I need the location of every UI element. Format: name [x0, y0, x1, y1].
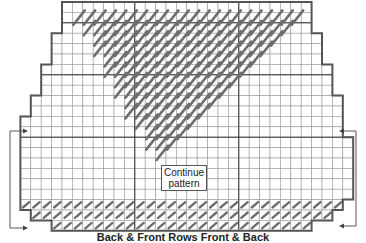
grid-cell: [208, 116, 218, 126]
grid-cell: [62, 137, 72, 147]
grid-cell: [280, 75, 290, 85]
grid-cell: [322, 148, 332, 158]
grid-cell: [312, 64, 322, 74]
continue-pattern-label: Continue pattern: [161, 165, 207, 191]
grid-cell: [270, 64, 280, 74]
grid-cell: [62, 44, 72, 54]
grid-cell: [322, 168, 332, 178]
grid-cell: [312, 75, 322, 85]
grid-cell: [104, 96, 114, 106]
grid-cell: [239, 168, 249, 178]
grid-cell: [176, 148, 186, 158]
grid-cell: [291, 137, 301, 147]
grid-cell: [270, 127, 280, 137]
grid-cell: [270, 75, 280, 85]
grid-cell: [93, 75, 103, 85]
grid-cell: [332, 189, 342, 199]
grid-cell: [343, 148, 353, 158]
grid-cell: [104, 116, 114, 126]
grid-cell: [280, 54, 290, 64]
grid-cell: [301, 33, 311, 43]
grid-cell: [260, 75, 270, 85]
grid-cell: [72, 189, 82, 199]
grid-cell: [41, 96, 51, 106]
grid-cell: [62, 148, 72, 158]
grid-cell: [218, 106, 228, 116]
grid-cell: [270, 85, 280, 95]
grid-cell: [83, 64, 93, 74]
grid-cell: [280, 64, 290, 74]
grid-cell: [249, 148, 259, 158]
grid-cell: [280, 85, 290, 95]
grid-cell: [124, 158, 134, 168]
grid-cell: [52, 54, 62, 64]
grid-cell: [280, 106, 290, 116]
grid-cell: [208, 158, 218, 168]
grid-cell: [218, 158, 228, 168]
grid-cell: [332, 168, 342, 178]
grid-cell: [322, 85, 332, 95]
grid-cell: [62, 2, 72, 12]
grid-cell: [208, 148, 218, 158]
grid-cell: [62, 96, 72, 106]
grid-cell: [301, 106, 311, 116]
grid-cell: [145, 189, 155, 199]
grid-cell: [312, 106, 322, 116]
grid-cell: [52, 116, 62, 126]
grid-cell: [62, 158, 72, 168]
grid-cell: [218, 148, 228, 158]
grid-cell: [239, 179, 249, 189]
grid-cell: [312, 168, 322, 178]
grid-cell: [301, 75, 311, 85]
grid-cell: [72, 106, 82, 116]
grid-cell: [72, 168, 82, 178]
grid-cell: [41, 75, 51, 85]
grid-cell: [41, 64, 51, 74]
grid-cell: [31, 96, 41, 106]
grid-cell: [301, 116, 311, 126]
grid-cell: [62, 85, 72, 95]
grid-cell: [322, 127, 332, 137]
grid-cell: [280, 179, 290, 189]
grid-cell: [249, 168, 259, 178]
grid-cell: [301, 12, 311, 22]
grid-cell: [218, 168, 228, 178]
grid-cell: [249, 127, 259, 137]
grid-cell: [249, 116, 259, 126]
grid-cell: [52, 127, 62, 137]
grid-cell: [41, 168, 51, 178]
grid-cell: [239, 158, 249, 168]
grid-cell: [208, 189, 218, 199]
grid-cell: [260, 189, 270, 199]
grid-cell: [20, 158, 30, 168]
grid-cell: [72, 158, 82, 168]
grid-cell: [249, 179, 259, 189]
grid-cell: [322, 189, 332, 199]
grid-cell: [124, 189, 134, 199]
grid-cell: [270, 189, 280, 199]
grid-cell: [343, 168, 353, 178]
grid-cell: [332, 96, 342, 106]
grid-cell: [312, 54, 322, 64]
grid-cell: [228, 137, 238, 147]
grid-cell: [62, 54, 72, 64]
grid-cell: [332, 137, 342, 147]
grid-cell: [20, 148, 30, 158]
grid-cell: [343, 137, 353, 147]
grid-cell: [93, 96, 103, 106]
grid-cell: [291, 168, 301, 178]
grid-cell: [114, 168, 124, 178]
grid-cell: [228, 116, 238, 126]
grid-cell: [52, 189, 62, 199]
grid-cell: [62, 116, 72, 126]
grid-cell: [343, 179, 353, 189]
grid-cell: [187, 148, 197, 158]
grid-cell: [301, 85, 311, 95]
grid-cell: [280, 44, 290, 54]
grid-cell: [280, 127, 290, 137]
grid-cell: [72, 127, 82, 137]
grid-cell: [31, 189, 41, 199]
grid-cell: [93, 85, 103, 95]
grid-cell: [208, 127, 218, 137]
